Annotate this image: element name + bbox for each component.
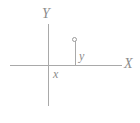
x-axis-line (10, 65, 122, 66)
x-axis-label: X (124, 57, 133, 71)
horizontal-distance-label: x (53, 68, 58, 80)
vertical-distance-label: y (79, 50, 84, 62)
point-drop-line (75, 41, 76, 65)
coordinate-diagram: Y X y x (0, 0, 140, 123)
y-axis-line (48, 24, 49, 106)
data-point-marker (72, 37, 77, 42)
y-axis-label: Y (42, 7, 50, 21)
